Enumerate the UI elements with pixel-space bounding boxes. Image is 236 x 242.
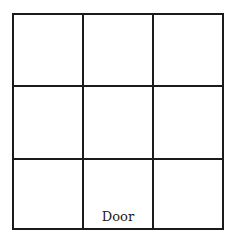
grid-border-left [12,13,14,230]
grid-line-horizontal-1 [12,85,224,87]
door-label: Door [84,209,152,224]
grid-border-top [12,13,224,15]
grid-border-right [222,13,224,230]
grid-line-horizontal-2 [12,158,224,160]
grid-line-vertical-2 [152,13,154,230]
grid-border-bottom [12,228,224,230]
grid-line-vertical-1 [82,13,84,230]
